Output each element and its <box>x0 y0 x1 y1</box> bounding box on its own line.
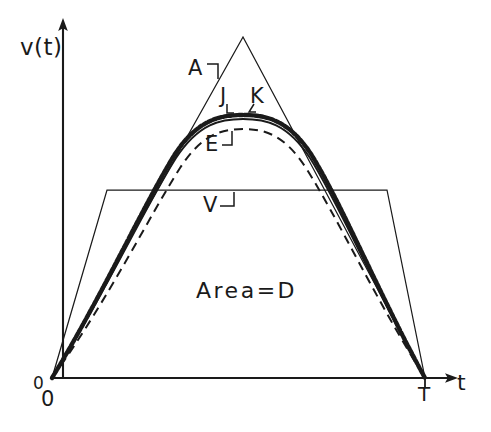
origin-label-corner: 0 <box>41 389 54 410</box>
x-axis-end-label: T <box>418 384 430 404</box>
curve-A-triangle <box>52 37 425 378</box>
area-annotation: Area=D <box>196 280 297 302</box>
diagram-svg <box>0 0 491 432</box>
leader-line-J <box>227 104 234 113</box>
curve-K-beaded <box>52 115 425 378</box>
y-axis-label: v(t) <box>20 36 63 59</box>
curve-label-K: K <box>250 86 264 107</box>
leader-line-V <box>220 192 234 206</box>
curve-J-solid <box>52 119 425 378</box>
curve-label-A: A <box>188 58 202 79</box>
curve-label-E: E <box>205 134 218 155</box>
x-axis-label: t <box>457 372 466 394</box>
leader-line-A <box>207 64 218 79</box>
leader-line-E <box>222 131 232 145</box>
curve-label-V: V <box>203 195 217 216</box>
curve-E-dashed <box>52 129 425 378</box>
figure-canvas: v(t) A J K E V Area=D 0 0 T t <box>0 0 491 432</box>
curve-label-J: J <box>220 86 226 107</box>
